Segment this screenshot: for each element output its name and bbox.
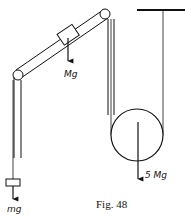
inclined-tube: [16, 10, 108, 78]
pulley-weight-label: 5 Mg: [145, 170, 167, 180]
left-vertical-tube: [14, 77, 21, 158]
hanging-mass-weight-label: mg: [7, 204, 22, 214]
figure-caption: Fig. 48: [96, 198, 128, 210]
hanging-mass: [6, 179, 20, 199]
physics-diagram: mg Mg 5 Mg Fig. 48: [0, 0, 185, 217]
incline-block-weight-label: Mg: [64, 69, 78, 79]
right-corner-pulley: [100, 9, 110, 19]
large-pulley: [111, 109, 163, 161]
